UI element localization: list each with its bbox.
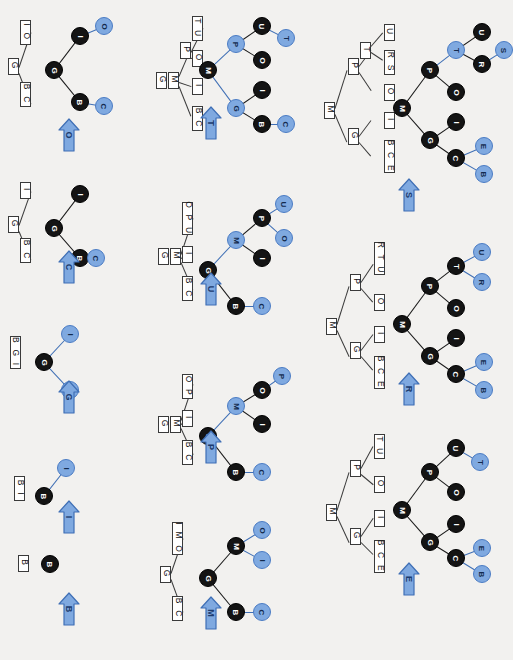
node-label: I [451, 337, 460, 339]
legend-box-1: R S [384, 50, 395, 75]
node-label: P [426, 67, 435, 72]
legend-box-7: T [360, 42, 371, 59]
node-label: I [61, 467, 70, 469]
legend-box-text: B C E [386, 140, 395, 173]
legend-box-2: I [192, 78, 203, 95]
graph-node-g: G [35, 353, 53, 371]
legend-box-text: G [160, 252, 169, 261]
legend-box-1: B C [20, 82, 31, 107]
legend-box-text: R S [386, 52, 395, 73]
legend-box-text: I [376, 516, 385, 521]
graph-node-i: I [71, 185, 89, 203]
node-label: O [257, 387, 266, 393]
legend-box-3: B C E [374, 356, 385, 389]
legend-box-text: R T U [376, 242, 385, 275]
node-label: O [99, 23, 108, 29]
legend-connector-7 [359, 142, 372, 157]
arrow-label: B [58, 592, 80, 626]
legend-box-0: B [18, 555, 29, 572]
legend-box-text: I [194, 84, 203, 89]
legend-box-text: G [158, 76, 167, 85]
graph-node-u: U [275, 195, 293, 213]
graph-node-u: U [253, 17, 271, 35]
legend-box-text: I [386, 118, 395, 123]
legend-box-text: T U [194, 18, 203, 38]
node-label: U [452, 445, 461, 451]
legend-box-text: P [352, 465, 361, 473]
legend-box-text: B C [184, 278, 193, 299]
node-label: U [478, 249, 487, 255]
graph-node-c: C [277, 115, 295, 133]
graph-node-o: O [253, 521, 271, 539]
step-content: I OB CGGIOBC [8, 14, 118, 126]
graph-node-o: O [447, 83, 465, 101]
legend-box-text: B G I [12, 337, 21, 367]
legend-connector-0 [337, 472, 350, 510]
legend-connector-5 [361, 356, 374, 371]
legend-box-4: M [326, 318, 337, 335]
arrow-label: P [200, 430, 222, 464]
graph-node-c: C [87, 249, 105, 267]
node-label: R [478, 279, 487, 285]
graph-node-m: M [393, 99, 411, 117]
legend-box-5: M [168, 72, 179, 89]
legend-box-0: U [384, 24, 395, 41]
graph-node-p: P [273, 367, 291, 385]
graph-node-i: I [253, 415, 271, 433]
legend-box-text: M [326, 106, 335, 115]
graph-node-b: B [475, 381, 493, 399]
legend-box-text: B C [22, 240, 31, 261]
legend-connector-4 [361, 518, 374, 537]
graph-node-b: B [475, 165, 493, 183]
legend-box-5: P [350, 274, 361, 291]
graph-node-i: I [253, 249, 271, 267]
legend-box-text: O [376, 480, 385, 489]
graph-node-t: T [471, 453, 489, 471]
legend-box-6: P [348, 58, 359, 75]
step-arrow: M [200, 596, 222, 630]
legend-box-4: G [156, 72, 167, 89]
step-content: BB [18, 546, 64, 582]
graph-node-r: R [473, 273, 491, 291]
legend-box-1: I [182, 410, 193, 427]
node-label: I [257, 423, 266, 425]
legend-box-text: G [10, 220, 19, 229]
node-label: C [258, 609, 267, 615]
node-label: P [258, 215, 267, 220]
node-label: M [231, 543, 240, 550]
graph-node-c: C [447, 549, 465, 567]
arrow-label-text: G [64, 393, 74, 400]
legend-connector-3 [361, 288, 374, 303]
legend-box-text: T [362, 47, 371, 54]
graph-node-c: C [253, 603, 271, 621]
node-label: C [100, 103, 109, 109]
graph-node-o: O [275, 229, 293, 247]
legend-connector-4 [361, 334, 374, 351]
node-label: B [46, 561, 55, 567]
legend-connector-6 [359, 120, 372, 137]
legend-box-2: I [374, 326, 385, 343]
node-label: E [480, 143, 489, 148]
graph-node-i: I [71, 27, 89, 45]
legend-box-text: I [184, 252, 193, 257]
graph-node-m: M [227, 231, 245, 249]
arrow-label-text: E [404, 576, 414, 582]
node-label: P [278, 373, 287, 378]
arrow-label: O [58, 118, 80, 152]
graph-node-g: G [421, 131, 439, 149]
node-label: U [478, 29, 487, 35]
graph-node-p: P [421, 61, 439, 79]
node-label: B [76, 99, 85, 105]
legend-box-2: B C [182, 276, 193, 301]
legend-box-0: T U [192, 16, 203, 41]
step-step-4: IB CGGIBC [8, 172, 104, 282]
node-label: B [232, 469, 241, 475]
legend-box-2: I [374, 510, 385, 527]
graph-node-i: I [61, 325, 79, 343]
graph-node-g: G [45, 219, 63, 237]
graph-node-o: O [253, 51, 271, 69]
legend-connector-0 [337, 286, 350, 324]
legend-box-1: O [374, 476, 385, 493]
legend-box-text: O P [184, 376, 193, 397]
legend-box-0: I [20, 182, 31, 199]
